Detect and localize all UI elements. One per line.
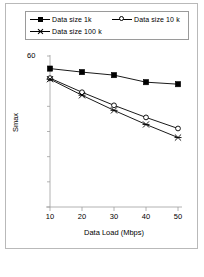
legend-entry-data-size-100k: Data size 100 k	[30, 26, 102, 36]
chart-figure: Data size 1k Data size 10 k Data size 10…	[0, 0, 204, 277]
legend-marker-open-circle-icon	[112, 14, 132, 24]
legend-entry-data-size-1k: Data size 1k	[30, 14, 92, 24]
legend-entry-data-size-10k: Data size 10 k	[112, 14, 180, 24]
x-axis-tick-label-4: 50	[171, 212, 185, 221]
y-axis-label: Smax	[11, 101, 20, 145]
legend-marker-filled-square-icon	[30, 14, 50, 24]
y-axis-tick-label-60: 60	[27, 51, 35, 60]
legend-label-2: Data size 100 k	[52, 27, 102, 36]
x-axis-label: Data Load (Mbps)	[44, 228, 184, 237]
x-axis-tick-label-2: 30	[107, 212, 121, 221]
legend-marker-cross-icon	[30, 26, 50, 36]
legend-label-0: Data size 1k	[52, 15, 92, 24]
x-axis-tick-label-1: 20	[75, 212, 89, 221]
chart-legend: Data size 1k Data size 10 k Data size 10…	[25, 11, 189, 40]
legend-label-1: Data size 10 k	[134, 15, 180, 24]
x-axis-tick-label-0: 10	[43, 212, 57, 221]
x-axis-tick-label-3: 40	[139, 212, 153, 221]
